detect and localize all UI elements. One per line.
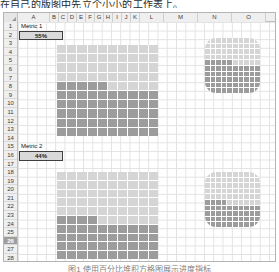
row-header-7[interactable]: 7 (4, 74, 17, 83)
metric-1-label[interactable]: Metric 1 (19, 22, 63, 31)
column-header-n[interactable]: N (198, 13, 232, 22)
waffle-cell (118, 172, 127, 180)
row-header-8[interactable]: 8 (4, 82, 17, 91)
row-header-2[interactable]: 2 (4, 31, 17, 40)
column-header-i[interactable]: I (113, 13, 122, 22)
waffle-cell (88, 109, 97, 117)
waffle-cell (244, 60, 249, 65)
waffle-cell (118, 225, 127, 233)
waffle-cell (57, 91, 66, 99)
waffle-cell (244, 189, 249, 194)
waffle-cell (250, 206, 255, 211)
row-header-25[interactable]: 25 (4, 228, 17, 237)
waffle-cell (77, 198, 86, 206)
waffle-cell (67, 109, 76, 117)
row-header-16[interactable]: 16 (4, 151, 17, 160)
column-header-a[interactable]: A (18, 13, 50, 22)
waffle-cell (250, 194, 255, 199)
waffle-cell (67, 128, 76, 136)
waffle-cell (118, 109, 127, 117)
row-header-9[interactable]: 9 (4, 91, 17, 100)
row-header-22[interactable]: 22 (4, 202, 17, 211)
column-header-d[interactable]: D (68, 13, 77, 22)
select-all-corner-icon[interactable] (4, 13, 18, 22)
column-header-j[interactable]: J (122, 13, 131, 22)
waffle-cell (98, 73, 107, 81)
waffle-cell (216, 178, 221, 183)
waffle-cell (255, 60, 260, 65)
row-header-27[interactable]: 27 (4, 245, 17, 254)
row-header-13[interactable]: 13 (4, 125, 17, 134)
waffle-cell (88, 181, 97, 189)
column-header-b[interactable]: B (50, 13, 59, 22)
column-header-m[interactable]: M (164, 13, 198, 22)
waffle-cell (239, 55, 244, 60)
waffle-cell (222, 217, 227, 222)
row-header-24[interactable]: 24 (4, 220, 17, 229)
column-header-f[interactable]: F (86, 13, 95, 22)
waffle-cell (222, 88, 227, 93)
waffle-cell (108, 225, 117, 233)
column-header-c[interactable]: C (59, 13, 68, 22)
row-header-5[interactable]: 5 (4, 56, 17, 65)
column-header-g[interactable]: G (95, 13, 104, 22)
row-header-17[interactable]: 17 (4, 160, 17, 169)
column-header-l[interactable]: L (140, 13, 164, 22)
waffle-cell (118, 82, 127, 90)
metric-2-label[interactable]: Metric 2 (19, 142, 63, 151)
metric-1-waffle-rounded[interactable] (205, 38, 260, 93)
row-header-10[interactable]: 10 (4, 99, 17, 108)
waffle-cell (239, 206, 244, 211)
waffle-cell (108, 82, 117, 90)
row-header-18[interactable]: 18 (4, 168, 17, 177)
metric-1-value[interactable]: 55% (19, 31, 63, 41)
row-header-1[interactable]: 1 (4, 22, 17, 31)
row-header-20[interactable]: 20 (4, 185, 17, 194)
waffle-cell (118, 242, 127, 250)
waffle-cell (227, 194, 232, 199)
waffle-cell (149, 190, 158, 198)
row-header-3[interactable]: 3 (4, 39, 17, 48)
waffle-cell (255, 211, 260, 216)
metric-2-value[interactable]: 44% (19, 151, 63, 161)
waffle-cell (149, 225, 158, 233)
waffle-cell (57, 73, 66, 81)
column-header-k[interactable]: K (131, 13, 140, 22)
column-header-cells: ABCDEFGHIJKLMNO (18, 13, 275, 21)
waffle-cell (118, 234, 127, 242)
row-header-19[interactable]: 19 (4, 177, 17, 186)
row-header-26[interactable]: 26 (4, 237, 17, 246)
waffle-cell (77, 119, 86, 127)
waffle-cell (250, 83, 255, 88)
waffle-cell (205, 55, 210, 60)
column-header-o[interactable]: O (232, 13, 266, 22)
column-header-e[interactable]: E (77, 13, 86, 22)
row-header-15[interactable]: 15 (4, 142, 17, 151)
waffle-cell (255, 77, 260, 82)
waffle-cell (139, 251, 148, 259)
waffle-cell (233, 55, 238, 60)
waffle-cell (128, 225, 137, 233)
waffle-cell (222, 194, 227, 199)
column-header-h[interactable]: H (104, 13, 113, 22)
waffle-cell (216, 38, 221, 43)
waffle-cell (244, 72, 249, 77)
row-header-4[interactable]: 4 (4, 48, 17, 57)
waffle-cell (239, 217, 244, 222)
waffle-cell (88, 63, 97, 71)
row-header-28[interactable]: 28 (4, 254, 17, 262)
waffle-cell (67, 100, 76, 108)
metric-1-waffle-square[interactable] (57, 45, 158, 136)
waffle-cell (139, 109, 148, 117)
row-header-23[interactable]: 23 (4, 211, 17, 220)
waffle-cell (250, 66, 255, 71)
row-header-11[interactable]: 11 (4, 108, 17, 117)
row-header-14[interactable]: 14 (4, 134, 17, 143)
row-header-12[interactable]: 12 (4, 117, 17, 126)
row-header-21[interactable]: 21 (4, 194, 17, 203)
metric-2-waffle-square[interactable] (57, 172, 158, 259)
row-header-6[interactable]: 6 (4, 65, 17, 74)
metric-2-waffle-rounded[interactable] (205, 172, 260, 227)
waffle-cell (205, 66, 210, 71)
waffle-cell (239, 38, 244, 43)
